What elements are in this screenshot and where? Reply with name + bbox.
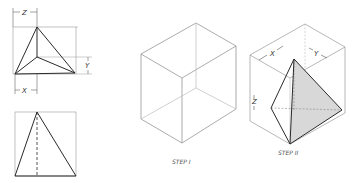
front-view-bounding-box [15,112,76,176]
x-dimension-label: X [21,87,27,95]
top-view: Z Y X [13,8,92,95]
pyramid-top-view [15,27,75,74]
step-2-y-label: Y [314,50,319,58]
step-2-label: STEP II [278,149,299,156]
step-2-x-label: X [269,50,275,58]
step-1-isometric-box [141,23,236,143]
z-dimension-label: Z [21,9,27,17]
step-1-label: STEP I [172,158,191,165]
pyramid-front-view [15,112,76,176]
technical-drawing: Z Y X [0,0,363,183]
step-2-construction: X Y Z [250,24,345,144]
front-view [15,112,76,176]
top-view-bounding-box [13,27,76,74]
y-dimension-label: Y [85,62,90,70]
step-2-z-label: Z [251,98,257,106]
